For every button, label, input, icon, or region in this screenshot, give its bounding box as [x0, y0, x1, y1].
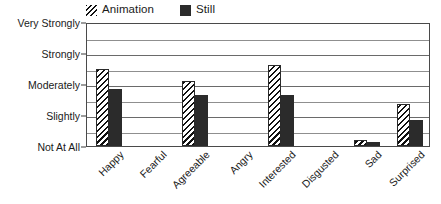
bar-animation-surprised[interactable]: [397, 104, 410, 146]
bar-series-container: [87, 24, 429, 146]
legend-label-animation: Animation: [102, 4, 154, 16]
legend-item-still[interactable]: Still: [180, 4, 215, 16]
y-axis-tick-label: Strongly: [41, 49, 80, 60]
bar-chart: Animation Still Not At AllSlightlyModera…: [0, 0, 441, 204]
x-axis-tick-label: Fearful: [137, 149, 168, 180]
bar-group: [182, 24, 208, 146]
plot-area: [86, 23, 430, 147]
hatch-swatch-icon: [86, 5, 97, 16]
x-axis-tick-label: Surprised: [387, 149, 426, 188]
x-axis: HappyFearfulAgreeableAngryInterestedDisg…: [86, 149, 430, 204]
bar-animation-sad[interactable]: [354, 140, 367, 146]
bar-group: [225, 24, 251, 146]
bar-group: [397, 24, 423, 146]
legend-label-still: Still: [196, 4, 215, 16]
y-axis-tick-label: Slightly: [46, 111, 80, 122]
x-axis-tick-label: Angry: [227, 149, 254, 176]
chart-legend: Animation Still: [86, 1, 296, 19]
bar-group: [354, 24, 380, 146]
solid-swatch-icon: [180, 5, 191, 16]
bar-group: [139, 24, 165, 146]
y-axis-tick-label: Moderately: [28, 80, 80, 91]
bar-animation-happy[interactable]: [96, 69, 109, 147]
bar-still-agreeable[interactable]: [195, 95, 208, 146]
bar-still-surprised[interactable]: [410, 120, 423, 146]
legend-item-animation[interactable]: Animation: [86, 4, 154, 16]
bar-animation-interested[interactable]: [268, 65, 281, 146]
y-axis-tick-label: Not At All: [37, 142, 80, 153]
x-axis-tick-label: Interested: [256, 149, 296, 189]
x-axis-tick-label: Agreeable: [170, 149, 211, 190]
bar-still-interested[interactable]: [281, 95, 294, 146]
bar-still-sad[interactable]: [367, 142, 380, 146]
bar-group: [311, 24, 337, 146]
bar-group: [268, 24, 294, 146]
bar-group: [96, 24, 122, 146]
bar-still-happy[interactable]: [109, 89, 122, 146]
x-axis-tick-label: Sad: [362, 149, 383, 170]
y-axis: Not At AllSlightlyModeratelyStronglyVery…: [0, 0, 80, 204]
x-axis-tick-label: Disgusted: [299, 149, 339, 189]
y-axis-tick-label: Very Strongly: [18, 18, 80, 29]
x-axis-tick-label: Happy: [96, 149, 125, 178]
bar-animation-agreeable[interactable]: [182, 81, 195, 146]
